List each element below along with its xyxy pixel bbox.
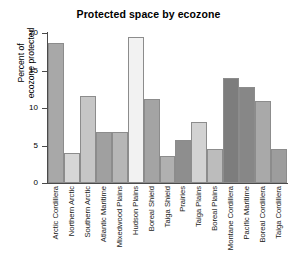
x-tick-label-text: Prairies — [179, 186, 187, 212]
x-tick-label: Arctic Cordillera — [49, 186, 63, 272]
y-tick-mark — [42, 33, 47, 34]
x-tick-label-text: Montane Cordillera — [227, 186, 235, 250]
x-axis-line — [47, 183, 288, 184]
y-tick-mark — [42, 71, 47, 72]
bar — [80, 96, 96, 183]
x-tick-label: Atlantic Maritime — [97, 186, 111, 272]
x-tick-label: Boreal Plains — [208, 186, 222, 272]
x-tick-label-text: Northern Arctic — [68, 186, 76, 236]
x-tick-label: Northern Arctic — [65, 186, 79, 272]
bar — [160, 156, 176, 183]
x-tick-label-text: Arctic Cordillera — [52, 186, 60, 240]
page-title: Protected space by ecozone — [0, 8, 297, 20]
x-tick-label: Taiga Cordillera — [272, 186, 286, 272]
x-tick-label-text: Boreal Cordillera — [259, 186, 267, 243]
bar — [128, 37, 144, 183]
bar — [48, 43, 64, 183]
x-tick-label: Taiga Shield — [161, 186, 175, 272]
y-tick-mark — [42, 108, 47, 109]
plot-area — [48, 33, 287, 183]
bar — [255, 101, 271, 183]
bar — [239, 87, 255, 183]
x-tick-label: Prairies — [176, 186, 190, 272]
x-tick-label-text: Boreal Plains — [211, 186, 219, 231]
y-tick-label: 5 — [12, 141, 38, 150]
y-tick-label: 15 — [12, 66, 38, 75]
x-tick-label-text: Hudson Plains — [132, 186, 140, 235]
x-tick-label-text: Mixedwood Plains — [116, 186, 124, 247]
x-tick-label-text: Boreal Shield — [148, 186, 156, 231]
bar — [207, 149, 223, 183]
x-tick-label: Hudson Plains — [129, 186, 143, 272]
y-axis-label-text: Percent of ecozone protected — [16, 28, 37, 99]
y-tick-label: 0 — [12, 178, 38, 187]
bar — [271, 149, 287, 184]
x-tick-label: Montane Cordillera — [224, 186, 238, 272]
x-tick-label: Boreal Shield — [145, 186, 159, 272]
chart-figure: Protected space by ecozone Percent of ec… — [0, 0, 297, 274]
x-tick-label: Taiga Plains — [192, 186, 206, 272]
x-tick-label-text: Southern Arctic — [84, 186, 92, 238]
x-tick-label-text: Taiga Cordillera — [275, 186, 283, 239]
x-tick-label: Mixedwood Plains — [113, 186, 127, 272]
y-tick-mark — [42, 183, 47, 184]
x-tick-label: Pacific Maritime — [240, 186, 254, 272]
bar — [112, 132, 128, 183]
bar — [191, 122, 207, 183]
bar — [175, 140, 191, 183]
y-tick-label: 10 — [12, 103, 38, 112]
x-tick-label: Southern Arctic — [81, 186, 95, 272]
y-tick-mark — [42, 146, 47, 147]
bar — [96, 132, 112, 183]
x-tick-label-text: Pacific Maritime — [243, 186, 251, 240]
bar — [223, 78, 239, 183]
x-tick-label-text: Taiga Shield — [164, 186, 172, 227]
bar — [144, 99, 160, 183]
x-tick-label-text: Atlantic Maritime — [100, 186, 108, 242]
bar — [64, 153, 80, 183]
x-tick-label-text: Taiga Plains — [195, 186, 203, 227]
x-tick-label: Boreal Cordillera — [256, 186, 270, 272]
y-tick-label: 20 — [12, 28, 38, 37]
